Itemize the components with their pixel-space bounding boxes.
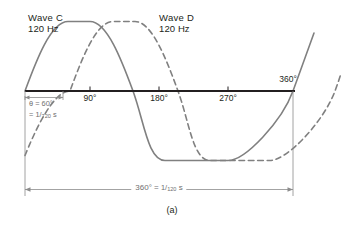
- wave-d-name: Wave D: [159, 12, 194, 23]
- period-fraction: 1/120: [161, 183, 177, 192]
- wave-c-label: Wave C 120 Hz: [28, 12, 63, 34]
- axis-tick-label-180: 180°: [150, 93, 168, 103]
- wave-d-label: Wave D 120 Hz: [159, 12, 194, 34]
- wave-d-frequency: 120 Hz: [159, 23, 194, 34]
- period-annotation: 360° = 1/120 s: [131, 183, 186, 192]
- waveform-figure: Wave C 120 Hz Wave D 120 Hz 90° 180° 270…: [0, 0, 352, 229]
- period-denominator: 120: [167, 186, 176, 192]
- phase-time-text: = 1/720 s: [29, 110, 57, 121]
- phase-annotation: θ = 60° = 1/720 s: [29, 99, 57, 120]
- axis-tick-label-360: 360°: [279, 74, 297, 84]
- axis-tick-label-270: 270°: [219, 93, 237, 103]
- phase-time-denominator: 720: [42, 112, 51, 118]
- period-suffix: s: [176, 183, 182, 192]
- axis-tick-label-90: 90°: [84, 93, 97, 103]
- period-prefix: 360° =: [135, 183, 161, 192]
- wave-c-name: Wave C: [28, 12, 63, 23]
- period-dimension: [25, 91, 293, 196]
- figure-caption: (a): [167, 205, 178, 215]
- phase-time-fraction: 1/720: [35, 110, 51, 121]
- phase-angle-text: θ = 60°: [29, 99, 57, 110]
- wave-c-frequency: 120 Hz: [28, 23, 63, 34]
- phase-time-suffix: s: [51, 110, 57, 119]
